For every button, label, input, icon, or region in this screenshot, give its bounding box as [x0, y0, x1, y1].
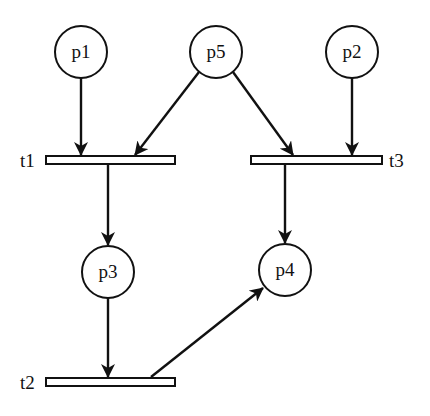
place-p4: p4 — [259, 244, 311, 296]
place-label: p4 — [276, 259, 296, 280]
transition-label: t2 — [20, 372, 35, 393]
transition-label: t3 — [389, 150, 404, 171]
place-p3: p3 — [82, 246, 134, 298]
transition-t1: t1 — [20, 150, 175, 171]
place-label: p5 — [207, 41, 226, 62]
transition-label: t1 — [20, 150, 35, 171]
transition-t3: t3 — [251, 150, 404, 171]
place-p2: p2 — [326, 26, 378, 78]
place-p5: p5 — [190, 26, 242, 78]
arc-p5-t1 — [135, 72, 199, 155]
petri-net-diagram: t1 t3 t2 p1 p5 p2 p3 p4 — [0, 0, 430, 416]
place-p1: p1 — [55, 26, 107, 78]
place-label: p1 — [72, 41, 91, 62]
arc-p5-t3 — [233, 72, 293, 155]
place-label: p3 — [99, 261, 118, 282]
arcs — [81, 72, 352, 377]
arc-t2-p4 — [151, 288, 263, 377]
place-label: p2 — [343, 41, 362, 62]
